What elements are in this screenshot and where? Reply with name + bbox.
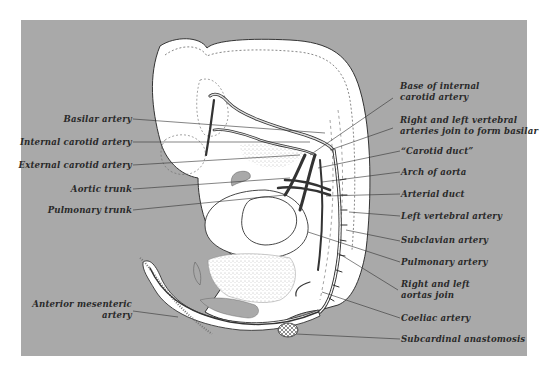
label-left-vertebral-artery: Left vertebral artery [401,211,502,222]
label-external-carotid-artery: External carotid artery [18,160,132,171]
label-anterior-mesenteric-line2: artery [32,310,132,321]
label-pulmonary-artery: Pulmonary artery [401,257,488,268]
label-pulmonary-trunk: Pulmonary trunk [48,205,132,216]
label-vertebral-join-line1: Right and left vertebral [400,115,538,126]
label-base-internal-line1: Base of internal [400,81,480,92]
label-basilar-artery: Basilar artery [64,114,132,125]
label-base-internal-line2: carotid artery [400,92,480,103]
label-subcardinal-anastomosis: Subcardinal anastomosis [401,334,525,345]
label-arch-of-aorta: Arch of aorta [401,167,466,178]
label-aortic-trunk: Aortic trunk [71,184,132,195]
label-aortas-join-line1: Right and left [401,279,470,290]
label-internal-carotid-artery: Internal carotid artery [20,137,132,148]
label-aortas-join-line2: aortas join [401,290,470,301]
heart-outline [242,197,297,245]
label-anterior-mesenteric-artery: Anterior mesenteric artery [32,299,132,320]
label-subclavian-artery: Subclavian artery [401,235,488,246]
label-aortas-join: Right and left aortas join [401,279,470,300]
label-base-of-internal-carotid-artery: Base of internal carotid artery [400,81,480,102]
embryo-arterial-diagram: Basilar artery Internal carotid artery E… [0,0,549,374]
label-vertebral-arteries-join: Right and left vertebral arteries join t… [400,115,538,136]
label-arterial-duct: Arterial duct [401,189,465,200]
subcardinal-anastomosis-oval [278,323,298,337]
label-anterior-mesenteric-line1: Anterior mesenteric [32,299,132,310]
label-carotid-duct: “Carotid duct” [401,146,473,157]
label-coeliac-artery: Coeliac artery [401,313,471,324]
label-vertebral-join-line2: arteries join to form basilar [400,126,538,137]
